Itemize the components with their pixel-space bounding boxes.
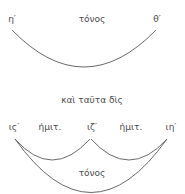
bottom-left-interval-label: ἡμιτ.	[39, 122, 62, 132]
top-tone-arc	[12, 30, 156, 67]
middle-caption: καὶ ταῦτα δὶς	[61, 95, 123, 105]
bottom-right-interval-label: ἡμιτ.	[120, 122, 143, 132]
bottom-right-label: ιη′	[166, 122, 177, 132]
top-left-label: η′	[8, 14, 16, 24]
top-right-label: θ′	[153, 14, 161, 24]
bottom-span-label: τόνος	[79, 168, 106, 178]
bottom-left-semitone-arc	[15, 139, 90, 160]
bottom-left-label: ις′	[9, 122, 19, 132]
bottom-middle-label: ιζ′	[87, 122, 97, 132]
bottom-right-semitone-arc	[91, 139, 167, 160]
top-center-label: τόνος	[79, 14, 106, 24]
bottom-tone-arc	[15, 139, 167, 193]
